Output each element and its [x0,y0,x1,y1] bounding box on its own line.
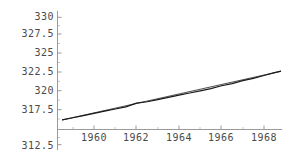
y-tick-label-330: 330 [34,12,54,22]
x-tick-label-1968: 1968 [251,133,277,143]
y-tick-label-317.5: 317.5 [21,105,54,115]
y-tick-label-320: 320 [34,86,54,96]
y-tick-label-325: 325 [34,48,54,58]
x-tick-label-1962: 1962 [123,133,149,143]
y-tick-label-322.5: 322.5 [21,67,54,77]
x-axis-tick-labels: 1960 1962 1964 1966 1968 [0,133,286,147]
x-tick-label-1960: 1960 [81,133,107,143]
chart-container: 330 327.5 325 322.5 320 317.5 312.5 1960… [0,0,286,161]
data-series-group [62,71,281,120]
y-tick-marks [58,17,62,144]
x-tick-label-1966: 1966 [208,133,234,143]
x-tick-marks [73,126,264,130]
y-tick-label-327.5: 327.5 [21,29,54,39]
axes-group [58,11,283,150]
x-tick-label-1964: 1964 [166,133,192,143]
